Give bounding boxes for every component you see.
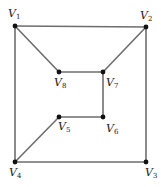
graph-diagram: V1V2V3V4V5V6V7V8 <box>0 0 161 187</box>
vertex-label-v7: V7 <box>106 76 118 90</box>
vertex-v6 <box>101 115 106 120</box>
vertex-v4 <box>13 160 18 165</box>
vertex-label-v4: V4 <box>9 166 22 180</box>
vertex-label-v6: V6 <box>106 122 119 136</box>
edges-group <box>15 26 146 162</box>
vertex-v2 <box>144 25 149 30</box>
vertex-label-v1: V1 <box>8 7 20 21</box>
vertex-v7 <box>101 70 106 75</box>
vertex-label-v2: V2 <box>140 9 152 23</box>
edge-v5-v4 <box>15 117 59 162</box>
vertex-v8 <box>57 70 62 75</box>
vertex-v1 <box>13 24 18 29</box>
vertex-v5 <box>57 115 62 120</box>
edge-v1-v8 <box>15 26 59 72</box>
vertex-label-v3: V3 <box>145 166 157 180</box>
vertex-label-v5: V5 <box>58 120 70 134</box>
labels-group: V1V2V3V4V5V6V7V8 <box>8 7 157 180</box>
vertex-v3 <box>144 160 149 165</box>
edge-v2-v7 <box>103 27 146 72</box>
edge-v1-v2 <box>15 26 146 27</box>
vertex-label-v8: V8 <box>54 76 66 90</box>
